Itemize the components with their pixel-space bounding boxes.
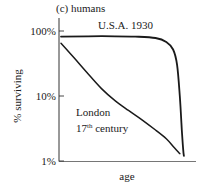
y-axis-label: % surviving (11, 69, 23, 123)
series-label-london-line2: 17th century (76, 122, 129, 134)
series-label-london-line1: London (76, 106, 111, 118)
chart-title: (c) humans (56, 2, 105, 15)
y-tick-label: 100% (30, 25, 56, 37)
survivorship-chart: (c) humans 100%10%1% % surviving age U.S… (0, 0, 200, 191)
series-label-usa-1930: U.S.A. 1930 (98, 19, 154, 31)
y-tick-label: 10% (36, 90, 56, 102)
series-line-london-17th-century (61, 43, 180, 153)
y-tick-label: 1% (41, 155, 56, 167)
x-axis-label: age (119, 170, 134, 182)
